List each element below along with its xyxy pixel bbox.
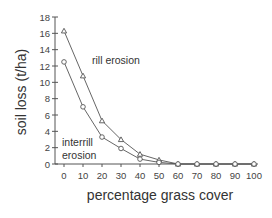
x-tick-label: 70: [192, 170, 203, 181]
interrill-erosion-circle-marker: [252, 162, 257, 167]
soil-loss-chart: 0246810121416180102030405060708090100 ri…: [0, 0, 272, 218]
y-tick-label: 12: [39, 61, 50, 72]
interrill-erosion-circle-marker: [119, 146, 124, 151]
interrill-erosion-circle-marker: [233, 162, 238, 167]
interrill-erosion-circle-marker: [214, 162, 219, 167]
interrill-erosion-circle-marker: [195, 162, 200, 167]
x-tick-label: 10: [78, 170, 89, 181]
x-axis-title: percentage grass cover: [87, 187, 234, 203]
y-tick-label: 6: [45, 110, 50, 121]
y-tick-label: 8: [45, 93, 50, 104]
y-tick-label: 14: [39, 44, 50, 55]
y-axis-title: soil loss (t/ha): [13, 49, 29, 135]
x-tick-label: 50: [154, 170, 165, 181]
interrill-erosion-annotation-line2: erosion: [62, 149, 97, 161]
interrill-erosion-circle-marker: [176, 162, 181, 167]
x-tick-label: 0: [61, 170, 66, 181]
interrill-erosion-circle-marker: [100, 135, 105, 140]
y-tick-label: 4: [45, 126, 50, 137]
y-tick-label: 18: [39, 12, 50, 23]
x-tick-label: 40: [135, 170, 146, 181]
rill-erosion-annotation: rill erosion: [92, 54, 140, 66]
y-tick-label: 16: [39, 28, 50, 39]
interrill-erosion-circle-marker: [81, 105, 86, 110]
x-tick-label: 20: [97, 170, 108, 181]
rill-erosion-triangle-marker: [80, 73, 85, 78]
interrill-erosion-circle-marker: [62, 60, 67, 65]
y-tick-label: 0: [45, 159, 50, 170]
x-tick-label: 30: [116, 170, 127, 181]
interrill-erosion-circle-marker: [138, 157, 143, 162]
y-tick-label: 2: [45, 142, 50, 153]
interrill-erosion-circle-marker: [157, 160, 162, 165]
interrill-erosion-annotation-line1: interrill: [62, 136, 93, 148]
x-tick-label: 100: [246, 170, 262, 181]
x-tick-label: 90: [230, 170, 241, 181]
x-tick-label: 60: [173, 170, 184, 181]
y-tick-label: 10: [39, 77, 50, 88]
x-tick-label: 80: [211, 170, 222, 181]
rill-erosion-triangle-marker: [61, 28, 66, 33]
rill-erosion-triangle-marker: [99, 118, 104, 123]
